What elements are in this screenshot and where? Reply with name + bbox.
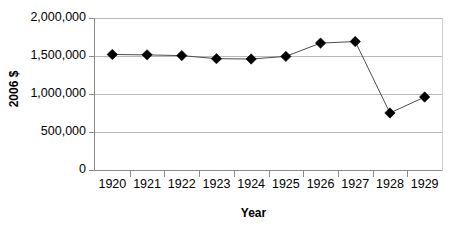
x-axis-title-text: Year bbox=[241, 206, 266, 220]
x-axis-title: Year bbox=[0, 206, 455, 220]
y-tick-0 bbox=[89, 170, 94, 171]
y-tick-1500000 bbox=[89, 56, 94, 57]
gridline-0 bbox=[95, 170, 442, 171]
data-point-1921 bbox=[142, 50, 152, 60]
y-tick-label-1000000: 1,000,000 bbox=[30, 87, 86, 100]
y-tick-label-0: 0 bbox=[79, 163, 86, 176]
y-tick-label-500000: 500,000 bbox=[41, 125, 86, 138]
y-tick-label-2000000: 2,000,000 bbox=[30, 11, 86, 24]
y-axis-title: 2006 $ bbox=[7, 59, 21, 119]
x-tick-label-1929: 1929 bbox=[411, 178, 439, 191]
x-tick-8 bbox=[373, 171, 374, 177]
data-point-1925 bbox=[281, 51, 291, 61]
x-tick-9 bbox=[407, 171, 408, 177]
data-point-1922 bbox=[177, 50, 187, 60]
x-tick-6 bbox=[303, 171, 304, 177]
x-tick-label-1926: 1926 bbox=[307, 178, 335, 191]
plot-area bbox=[95, 18, 442, 170]
x-tick-5 bbox=[269, 171, 270, 177]
data-series bbox=[95, 18, 442, 170]
x-tick-label-1924: 1924 bbox=[237, 178, 265, 191]
plot-right-border bbox=[442, 18, 443, 171]
data-point-1926 bbox=[315, 38, 325, 48]
series-markers bbox=[107, 36, 430, 118]
x-tick-label-1922: 1922 bbox=[168, 178, 196, 191]
y-tick-label-1500000: 1,500,000 bbox=[30, 49, 86, 62]
x-tick-label-1925: 1925 bbox=[272, 178, 300, 191]
data-point-1924 bbox=[246, 54, 256, 64]
x-tick-label-1928: 1928 bbox=[376, 178, 404, 191]
data-point-1927 bbox=[350, 36, 360, 46]
x-tick-4 bbox=[234, 171, 235, 177]
x-tick-1 bbox=[130, 171, 131, 177]
y-tick-2000000 bbox=[89, 18, 94, 19]
series-line bbox=[112, 42, 424, 113]
x-tick-label-1920: 1920 bbox=[98, 178, 126, 191]
y-tick-500000 bbox=[89, 132, 94, 133]
x-tick-7 bbox=[338, 171, 339, 177]
data-point-1920 bbox=[107, 49, 117, 59]
x-tick-label-1923: 1923 bbox=[203, 178, 231, 191]
scan-artifact bbox=[0, 228, 455, 232]
x-tick-3 bbox=[199, 171, 200, 177]
x-tick-2 bbox=[164, 171, 165, 177]
y-tick-1000000 bbox=[89, 94, 94, 95]
line-chart: 0500,0001,000,0001,500,0002,000,000 1920… bbox=[0, 0, 455, 235]
data-point-1923 bbox=[211, 53, 221, 63]
x-tick-label-1927: 1927 bbox=[341, 178, 369, 191]
data-point-1929 bbox=[419, 92, 429, 102]
data-point-1928 bbox=[385, 108, 395, 118]
x-tick-label-1921: 1921 bbox=[133, 178, 161, 191]
